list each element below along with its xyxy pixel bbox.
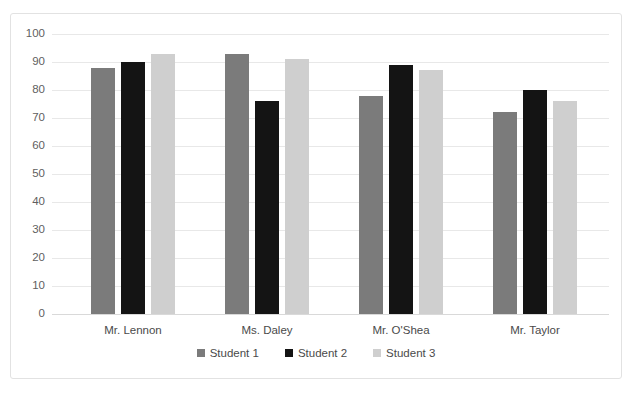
y-axis-tick-label: 10 <box>32 280 45 292</box>
bar-group: Mr. O'Shea <box>359 34 443 314</box>
y-axis-tick-label: 40 <box>32 196 45 208</box>
legend-swatch-icon <box>285 349 293 357</box>
y-axis-tick-label: 90 <box>32 56 45 68</box>
plot-area: 1009080706050403020100 Mr. LennonMs. Dal… <box>52 34 609 314</box>
bar[interactable] <box>493 112 517 314</box>
x-axis-tick-label: Mr. Taylor <box>455 324 615 336</box>
y-axis-tick-label: 70 <box>32 112 45 124</box>
y-axis-tick-label: 100 <box>26 28 45 40</box>
legend-label: Student 2 <box>298 347 347 359</box>
bar[interactable] <box>121 62 145 314</box>
bar[interactable] <box>255 101 279 314</box>
chart-frame: 1009080706050403020100 Mr. LennonMs. Dal… <box>10 13 622 379</box>
legend-item[interactable]: Student 2 <box>285 347 347 359</box>
legend-label: Student 3 <box>386 347 435 359</box>
y-axis-tick-label: 20 <box>32 252 45 264</box>
bar[interactable] <box>553 101 577 314</box>
bar-group: Mr. Taylor <box>493 34 577 314</box>
gridline-0 <box>52 314 609 315</box>
legend-item[interactable]: Student 1 <box>197 347 259 359</box>
bar[interactable] <box>285 59 309 314</box>
bar[interactable] <box>523 90 547 314</box>
y-axis-tick-label: 50 <box>32 168 45 180</box>
y-axis-tick-label: 60 <box>32 140 45 152</box>
legend-swatch-icon <box>373 349 381 357</box>
legend-swatch-icon <box>197 349 205 357</box>
bar[interactable] <box>151 54 175 314</box>
bar-group: Mr. Lennon <box>91 34 175 314</box>
legend-label: Student 1 <box>210 347 259 359</box>
y-axis-tick-label: 0 <box>39 308 45 320</box>
chart-title <box>11 10 621 21</box>
y-axis-tick-label: 30 <box>32 224 45 236</box>
bar[interactable] <box>359 96 383 314</box>
bar[interactable] <box>419 70 443 314</box>
bar[interactable] <box>225 54 249 314</box>
bar[interactable] <box>389 65 413 314</box>
bar-group: Ms. Daley <box>225 34 309 314</box>
y-axis-tick-label: 80 <box>32 84 45 96</box>
chart-legend: Student 1Student 2Student 3 <box>11 347 621 359</box>
legend-item[interactable]: Student 3 <box>373 347 435 359</box>
bar[interactable] <box>91 68 115 314</box>
